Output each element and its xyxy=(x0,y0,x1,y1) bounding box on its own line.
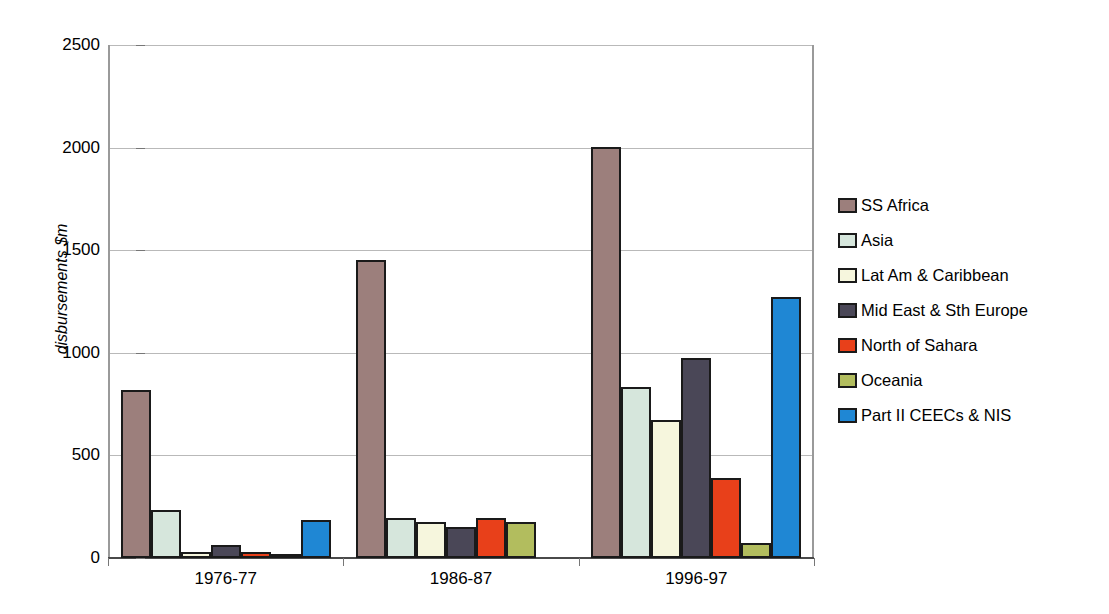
legend-item-part-ii-ceecs-nis[interactable]: Part II CEECs & NIS xyxy=(838,398,1100,433)
legend-item-lat-am-caribbean[interactable]: Lat Am & Caribbean xyxy=(838,258,1100,293)
legend-label: Part II CEECs & NIS xyxy=(861,407,1011,424)
bar-1976-77-oceania[interactable] xyxy=(271,554,301,558)
legend-item-asia[interactable]: Asia xyxy=(838,223,1100,258)
y-axis-tick-mark xyxy=(136,558,145,559)
bar-chart: (1976-77, average of 1986-87 and 1987-88… xyxy=(0,0,1109,614)
legend-swatch-icon xyxy=(838,373,857,388)
x-axis-tick-mark xyxy=(108,558,109,566)
bar-1976-77-lat-am-caribbean[interactable] xyxy=(181,552,211,558)
bar-1996-97-mid-east-sth-europe[interactable] xyxy=(681,358,711,558)
legend-label: SS Africa xyxy=(861,197,929,214)
bar-1986-87-asia[interactable] xyxy=(386,518,416,558)
legend-item-north-of-sahara[interactable]: North of Sahara xyxy=(838,328,1100,363)
legend-swatch-icon xyxy=(838,198,857,213)
legend-label: Lat Am & Caribbean xyxy=(861,267,1009,284)
x-axis-tick-mark xyxy=(814,558,815,566)
legend-item-ss-africa[interactable]: SS Africa xyxy=(838,188,1100,223)
bar-1976-77-ss-africa[interactable] xyxy=(121,390,151,558)
y-axis-tick-label: 0 xyxy=(46,549,100,566)
y-axis-tick-label: 500 xyxy=(46,446,100,463)
bar-1986-87-north-of-sahara[interactable] xyxy=(476,518,506,558)
legend-swatch-icon xyxy=(838,408,857,423)
x-axis-tick-label: 1976-77 xyxy=(194,569,256,589)
legend-swatch-icon xyxy=(838,233,857,248)
bar-1976-77-asia[interactable] xyxy=(151,510,181,558)
bar-1996-97-north-of-sahara[interactable] xyxy=(711,478,741,558)
x-axis-tick-label: 1996-97 xyxy=(665,569,727,589)
bar-1986-87-lat-am-caribbean[interactable] xyxy=(416,522,446,558)
legend-swatch-icon xyxy=(838,338,857,353)
bar-1996-97-oceania[interactable] xyxy=(741,543,771,558)
legend-item-oceania[interactable]: Oceania xyxy=(838,363,1100,398)
legend-label: Mid East & Sth Europe xyxy=(861,302,1028,319)
bar-1996-97-part-ii-ceecs-nis[interactable] xyxy=(771,297,801,558)
legend-label: Asia xyxy=(861,232,893,249)
x-axis-tick-mark xyxy=(579,558,580,566)
x-axis-tick-label: 1986-87 xyxy=(430,569,492,589)
bar-1986-87-ss-africa[interactable] xyxy=(356,260,386,558)
bar-group-1996-97 xyxy=(591,45,801,558)
bar-group-1986-87 xyxy=(356,45,566,558)
legend-swatch-icon xyxy=(838,268,857,283)
bar-1986-87-oceania[interactable] xyxy=(506,522,536,558)
x-axis-tick-mark xyxy=(343,558,344,566)
bar-1986-87-mid-east-sth-europe[interactable] xyxy=(446,527,476,558)
bar-1976-77-north-of-sahara[interactable] xyxy=(241,552,271,558)
y-axis-tick-label: 2000 xyxy=(46,139,100,156)
bar-1996-97-ss-africa[interactable] xyxy=(591,147,621,558)
bar-1996-97-lat-am-caribbean[interactable] xyxy=(651,420,681,558)
bar-1996-97-asia[interactable] xyxy=(621,387,651,558)
legend-item-mid-east-sth-europe[interactable]: Mid East & Sth Europe xyxy=(838,293,1100,328)
bar-1976-77-part-ii-ceecs-nis[interactable] xyxy=(301,520,331,558)
legend-label: Oceania xyxy=(861,372,922,389)
legend-label: North of Sahara xyxy=(861,337,977,354)
y-axis-tick-label: 2500 xyxy=(46,36,100,53)
legend-swatch-icon xyxy=(838,303,857,318)
bar-1976-77-mid-east-sth-europe[interactable] xyxy=(211,545,241,558)
chart-legend: SS AfricaAsiaLat Am & CaribbeanMid East … xyxy=(838,188,1100,433)
bar-group-1976-77 xyxy=(121,45,331,558)
y-axis-title: disbursements $m xyxy=(53,179,71,399)
